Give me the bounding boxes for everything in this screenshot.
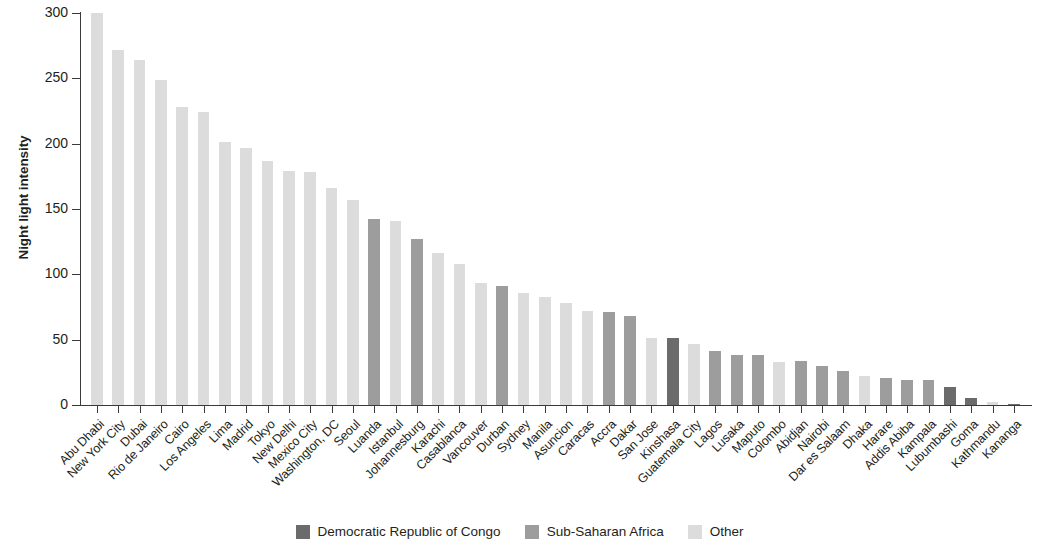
legend-item[interactable]: Other [688, 524, 744, 539]
x-axis-tick [779, 406, 780, 413]
x-axis-tick [481, 406, 482, 413]
bar[interactable] [667, 338, 679, 405]
x-axis-tick [715, 406, 716, 413]
bar[interactable] [432, 253, 444, 405]
bar[interactable] [198, 112, 210, 405]
x-axis-tick [801, 406, 802, 413]
x-axis-tick [929, 406, 930, 413]
bar[interactable] [262, 161, 274, 405]
x-axis-tick [97, 406, 98, 413]
x-axis-tick [161, 406, 162, 413]
x-axis-tick [886, 406, 887, 413]
bar[interactable] [688, 344, 700, 405]
bar[interactable] [304, 172, 316, 405]
bar[interactable] [965, 398, 977, 405]
bar[interactable] [347, 200, 359, 405]
y-axis-tick [72, 405, 80, 406]
x-axis-line [80, 405, 1032, 406]
legend-swatch-icon [296, 525, 310, 539]
x-axis-tick [758, 406, 759, 413]
x-axis-tick [417, 406, 418, 413]
bar[interactable] [219, 142, 231, 405]
bar[interactable] [283, 171, 295, 405]
x-axis-tick [822, 406, 823, 413]
x-axis-tick [332, 406, 333, 413]
bar[interactable] [176, 107, 188, 405]
bar[interactable] [752, 355, 764, 405]
bar[interactable] [880, 378, 892, 405]
x-axis-tick [843, 406, 844, 413]
bar[interactable] [816, 366, 828, 405]
bar[interactable] [411, 239, 423, 405]
legend-swatch-icon [688, 525, 702, 539]
bar[interactable] [944, 387, 956, 405]
x-axis-tick [737, 406, 738, 413]
legend-label: Other [710, 524, 744, 539]
x-axis-tick [694, 406, 695, 413]
legend-item[interactable]: Sub-Saharan Africa [525, 524, 664, 539]
bar[interactable] [624, 316, 636, 405]
x-axis-tick [268, 406, 269, 413]
x-axis-tick [523, 406, 524, 413]
x-axis-tick [630, 406, 631, 413]
bar[interactable] [901, 380, 913, 405]
bar[interactable] [454, 264, 466, 405]
bar[interactable] [1008, 404, 1020, 406]
bar[interactable] [240, 148, 252, 405]
bar[interactable] [709, 351, 721, 405]
bar[interactable] [923, 380, 935, 405]
x-axis-tick [459, 406, 460, 413]
bar[interactable] [646, 338, 658, 405]
x-axis-tick [865, 406, 866, 413]
x-axis-tick [438, 406, 439, 413]
bar[interactable] [390, 221, 402, 405]
bar[interactable] [582, 311, 594, 405]
x-axis-tick [118, 406, 119, 413]
bar[interactable] [603, 312, 615, 405]
x-axis-tick [502, 406, 503, 413]
x-axis-tick [204, 406, 205, 413]
bar[interactable] [859, 376, 871, 405]
x-axis-tick [374, 406, 375, 413]
x-axis-tick [566, 406, 567, 413]
legend-swatch-icon [525, 525, 539, 539]
bar[interactable] [155, 80, 167, 405]
bar[interactable] [475, 283, 487, 405]
bar[interactable] [326, 188, 338, 405]
bar[interactable] [112, 50, 124, 405]
bar[interactable] [368, 219, 380, 405]
bar[interactable] [539, 297, 551, 405]
legend-label: Sub-Saharan Africa [547, 524, 664, 539]
x-axis-tick [140, 406, 141, 413]
bar[interactable] [496, 286, 508, 405]
bar[interactable] [560, 303, 572, 405]
bar[interactable] [518, 293, 530, 405]
night-light-intensity-bar-chart: Night light intensity 050100150200250300… [0, 0, 1039, 549]
chart-legend: Democratic Republic of CongoSub-Saharan … [0, 524, 1039, 539]
legend-item[interactable]: Democratic Republic of Congo [296, 524, 501, 539]
bars-group [0, 0, 1039, 405]
x-axis-tick [609, 406, 610, 413]
x-axis-tick [971, 406, 972, 413]
x-axis-tick [289, 406, 290, 413]
x-axis-tick [545, 406, 546, 413]
x-axis-tick [651, 406, 652, 413]
x-axis-tick [1014, 406, 1015, 413]
bar[interactable] [91, 13, 103, 405]
bar[interactable] [773, 362, 785, 405]
bar[interactable] [134, 60, 146, 405]
x-axis-tick [993, 406, 994, 413]
x-axis-tick [907, 406, 908, 413]
x-axis-tick [950, 406, 951, 413]
x-axis-tick [246, 406, 247, 413]
x-axis-tick [310, 406, 311, 413]
bar[interactable] [987, 402, 999, 405]
x-axis-tick [182, 406, 183, 413]
x-axis-tick [396, 406, 397, 413]
x-axis-tick [587, 406, 588, 413]
bar[interactable] [795, 361, 807, 405]
x-axis-tick [353, 406, 354, 413]
bar[interactable] [837, 371, 849, 405]
bar[interactable] [731, 355, 743, 405]
legend-label: Democratic Republic of Congo [318, 524, 501, 539]
